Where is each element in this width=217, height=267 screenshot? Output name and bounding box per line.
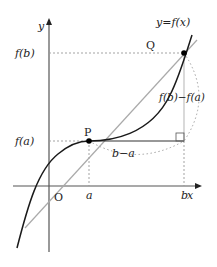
point-p [86, 138, 92, 144]
y-axis-arrow-icon [46, 18, 52, 25]
y-axis-label: y [37, 20, 45, 33]
curve-label: y=f(x) [155, 16, 190, 29]
x-axis-label: x [187, 189, 194, 202]
right-angle-marker [176, 133, 184, 141]
a-label: a [86, 189, 93, 202]
fa-label: f(a) [14, 135, 34, 148]
point-q-label: Q [146, 39, 155, 52]
horizontal-diff-label: b−a [112, 147, 135, 160]
point-p-label: P [84, 126, 92, 139]
secant-line [25, 40, 197, 228]
point-q [181, 50, 187, 56]
mvt-diagram: y x O y=f(x) Q P f(b) f(a) a b f(b)−f(a)… [0, 0, 217, 267]
b-label: b [181, 189, 188, 202]
origin-label: O [54, 191, 63, 204]
x-axis-arrow-icon [195, 183, 202, 189]
fb-label: f(b) [14, 47, 35, 60]
vertical-diff-label: f(b)−f(a) [158, 91, 205, 103]
